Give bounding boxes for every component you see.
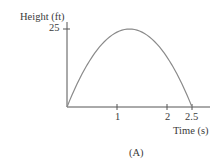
y-axis-label: Height (ft) (20, 11, 65, 22)
figure: Height (ft) 25 1 2 2.5 Time (s) (A) (0, 0, 224, 165)
plot-area (0, 0, 224, 165)
x-tick-label-2-5: 2.5 (185, 111, 198, 122)
x-axis-label: Time (s) (173, 125, 209, 136)
height-curve (67, 29, 192, 107)
figure-caption: (A) (129, 147, 144, 158)
y-tick-label-25: 25 (49, 22, 60, 33)
x-tick-label-2: 2 (165, 111, 170, 122)
x-tick-label-1: 1 (115, 111, 120, 122)
